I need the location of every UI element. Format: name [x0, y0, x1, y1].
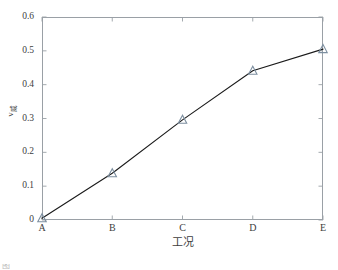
x-axis-tick-labels: ABCDE [42, 222, 323, 236]
y-axis-title-symbol: ν [5, 112, 15, 116]
y-tick-label: 0.3 [22, 114, 38, 124]
y-tick-label: 0.6 [22, 12, 38, 22]
caption-sliver: 图 [0, 264, 338, 270]
plot-area [42, 17, 323, 220]
data-point-markers [38, 45, 327, 222]
x-tick-label: A [38, 222, 45, 233]
y-tick-label: 0.4 [22, 80, 38, 90]
data-series-line [42, 49, 323, 218]
data-point-marker [319, 45, 327, 53]
x-tick-label: E [320, 222, 326, 233]
x-tick-label: B [109, 222, 116, 233]
x-axis-title: 工况 [42, 237, 323, 249]
y-axis-title-subscript: 威 [10, 105, 17, 112]
y-tick-label: 0 [29, 215, 38, 225]
y-tick-label: 0.5 [22, 46, 38, 56]
y-axis-title: ν威 [5, 100, 19, 122]
caption-text: 图 [0, 264, 338, 270]
x-tick-label: D [249, 222, 256, 233]
figure-container: 00.10.20.30.40.50.6 ABCDE ν威 工况 图 [0, 0, 338, 270]
y-tick-label: 0.2 [22, 147, 38, 157]
x-tick-label: C [179, 222, 186, 233]
axis-ticks [42, 17, 323, 220]
y-tick-label: 0.1 [22, 181, 38, 191]
